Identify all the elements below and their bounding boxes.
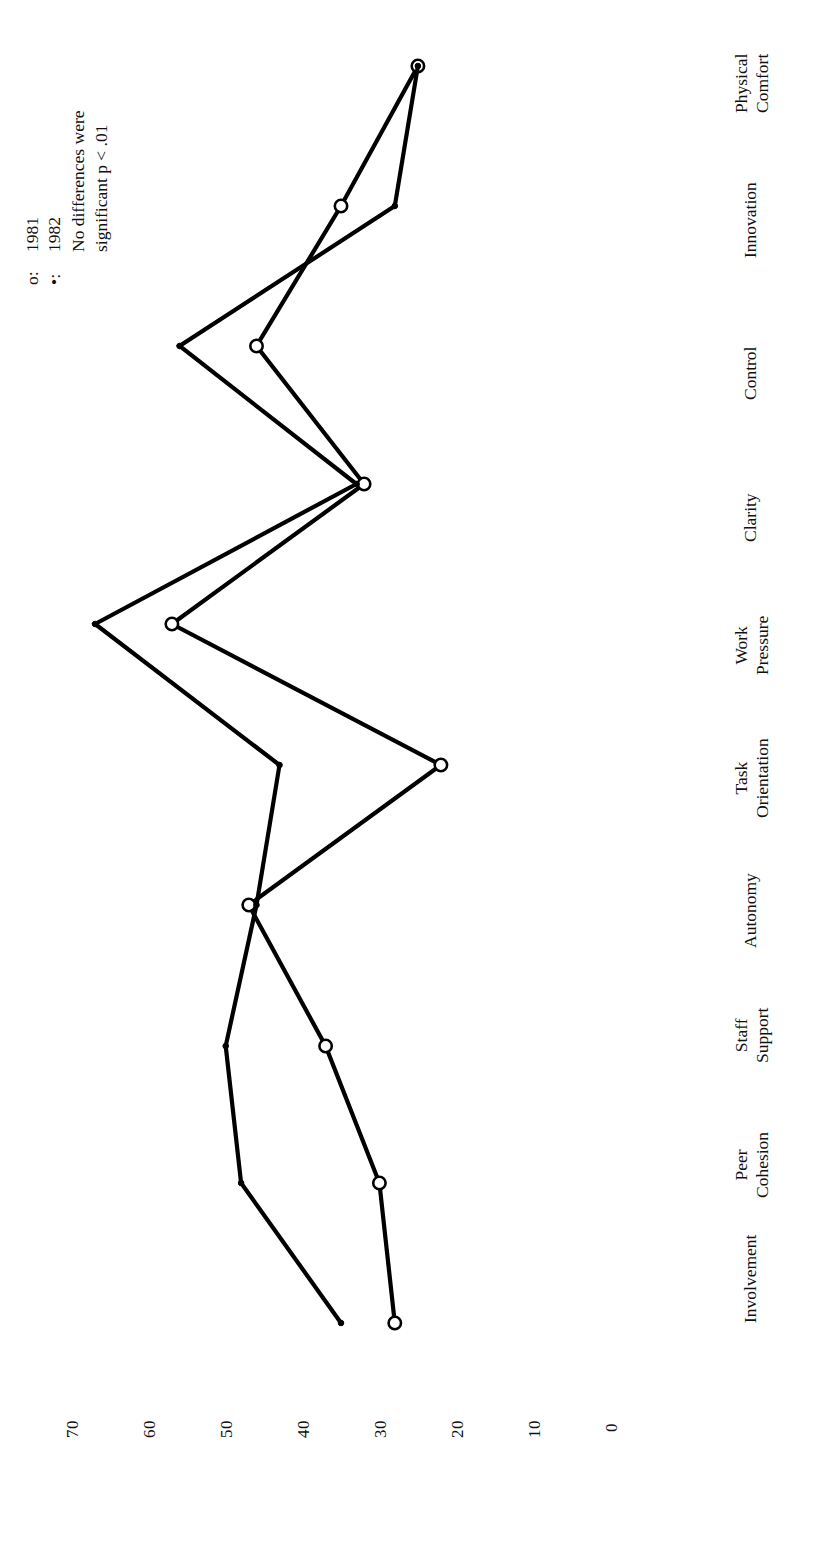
series-line-1981 bbox=[172, 66, 441, 1323]
data-point-1982-task-orientation bbox=[277, 762, 283, 768]
data-point-1982-clarity bbox=[354, 481, 360, 487]
chart-figure: o: 1981 •: 1982 No differences were sign… bbox=[0, 0, 820, 1554]
data-point-1981-autonomy bbox=[243, 899, 255, 911]
data-point-1982-innovation bbox=[392, 203, 398, 209]
data-point-1982-peer-cohesion bbox=[238, 1180, 244, 1186]
data-point-1981-peer-cohesion bbox=[373, 1177, 385, 1189]
series-markers-1982 bbox=[92, 63, 420, 1326]
data-point-1981-work-pressure bbox=[166, 618, 178, 630]
data-point-1981-task-orientation bbox=[435, 759, 447, 771]
series-line-1982 bbox=[95, 66, 418, 1323]
data-point-1981-staff-support bbox=[319, 1040, 331, 1052]
data-point-1982-control bbox=[177, 343, 183, 349]
data-point-1982-work-pressure bbox=[92, 621, 98, 627]
series-1982 bbox=[92, 63, 420, 1326]
series-1981 bbox=[166, 60, 447, 1329]
data-point-1982-staff-support bbox=[223, 1043, 229, 1049]
data-point-1981-innovation bbox=[335, 200, 347, 212]
plot-area bbox=[0, 0, 820, 1554]
data-point-1981-involvement bbox=[389, 1317, 401, 1329]
data-point-1982-autonomy bbox=[254, 902, 260, 908]
data-point-1982-physical-comfort bbox=[415, 63, 421, 69]
data-point-1981-control bbox=[250, 340, 262, 352]
data-point-1982-involvement bbox=[338, 1320, 344, 1326]
